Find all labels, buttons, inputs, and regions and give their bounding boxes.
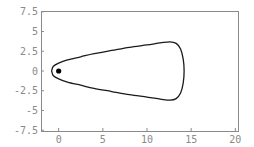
y-tick-label: 5	[32, 26, 38, 37]
plot-frame	[42, 12, 239, 132]
y-axis: 7.552.50-2.5-5-7.5	[14, 6, 44, 135]
x-tick-label: 5	[100, 134, 106, 145]
y-tick-label: 2.5	[20, 46, 38, 57]
x-axis: 05101520	[56, 128, 242, 145]
orbit-curve	[52, 42, 185, 100]
x-tick-label: 10	[141, 134, 153, 145]
x-tick-label: 0	[56, 134, 62, 145]
y-tick-label: 7.5	[20, 6, 38, 17]
fixed-point-marker	[56, 68, 61, 73]
orbit-chart: 05101520 7.552.50-2.5-5-7.5	[0, 0, 254, 147]
plot-area	[52, 42, 185, 100]
y-tick-label: -7.5	[14, 125, 38, 136]
x-tick-label: 15	[185, 134, 197, 145]
x-tick-label: 20	[229, 134, 241, 145]
y-tick-label: -2.5	[14, 85, 38, 96]
y-tick-label: 0	[32, 66, 38, 77]
y-tick-label: -5	[26, 105, 38, 116]
